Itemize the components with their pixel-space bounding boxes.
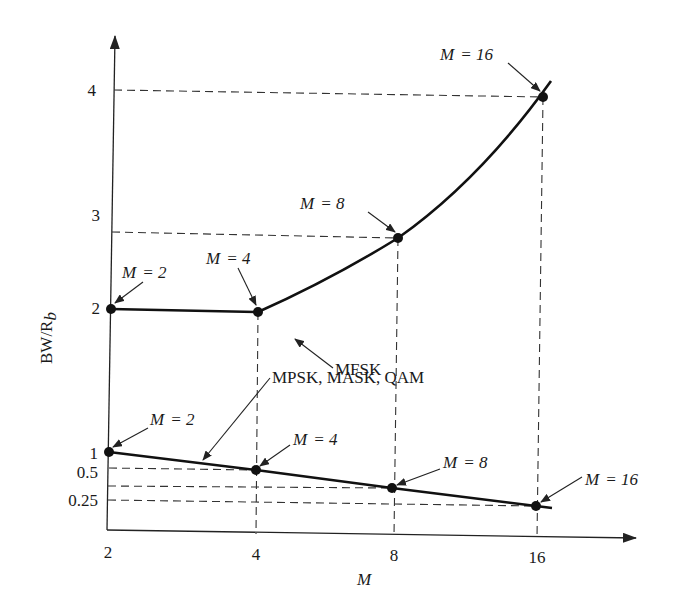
- svg-text:3: 3: [92, 206, 101, 225]
- svg-text:16: 16: [529, 548, 546, 567]
- label-mpsk-m8: M= 8: [442, 453, 488, 472]
- x-tick-labels: 2 4 8 16: [104, 543, 546, 567]
- svg-text:8: 8: [390, 546, 399, 565]
- label-mfsk-m2: M= 2: [121, 263, 167, 282]
- label-mpsk-m4: M= 4: [292, 430, 338, 449]
- mfsk-point-m16: [538, 92, 548, 102]
- mfsk-point-m4: [253, 307, 263, 317]
- svg-text:2: 2: [92, 299, 101, 318]
- label-mfsk-m16: M= 16: [439, 45, 493, 64]
- label-mpsk-m2: M= 2: [149, 410, 195, 429]
- mfsk-point-m2: [106, 304, 116, 314]
- mpsk-point-m8: [387, 483, 397, 493]
- svg-text:2: 2: [104, 543, 113, 562]
- bandwidth-efficiency-chart: M= 2 M= 4 M= 8 M= 16 MFSK M= 2 MPSK, MAS…: [0, 0, 676, 613]
- svg-text:4: 4: [88, 81, 97, 100]
- svg-text:1: 1: [90, 444, 99, 463]
- mfsk-point-m8: [393, 233, 403, 243]
- annotation-labels: M= 2 M= 4 M= 8 M= 16 MFSK M= 2 MPSK, MAS…: [121, 45, 638, 489]
- mpsk-point-m2: [104, 447, 114, 457]
- y-axis-title: BW/Rb: [37, 312, 60, 364]
- svg-text:0.5: 0.5: [77, 463, 98, 482]
- annotation-arrows: [113, 63, 582, 502]
- y-tick-labels: 4 3 2 1 0.5 0.25: [68, 81, 100, 510]
- x-axis-title: M: [356, 570, 372, 589]
- mpsk-point-m4: [251, 465, 261, 475]
- label-mfsk-m4: M= 4: [205, 249, 251, 268]
- mpsk-point-m16: [531, 501, 541, 511]
- svg-text:4: 4: [252, 545, 261, 564]
- svg-text:0.25: 0.25: [68, 491, 98, 510]
- label-mpsk-m16: M= 16: [584, 470, 638, 489]
- x-axis: [107, 530, 636, 538]
- label-mfsk-m8: M= 8: [299, 194, 345, 213]
- label-mpsk: MPSK, MASK, QAM: [272, 368, 424, 387]
